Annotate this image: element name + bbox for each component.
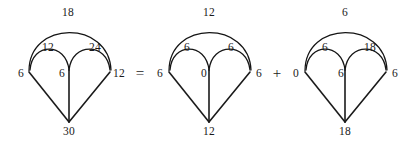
vertex-left-label-left-graph: 6 <box>18 68 24 80</box>
vertex-center-label-right-graph: 6 <box>338 68 344 80</box>
inner-arc-left-label-middle-graph: 6 <box>184 42 190 54</box>
inner-arc-left-label-right-graph: 6 <box>322 42 328 54</box>
vertex-bottom-label-middle-graph: 12 <box>203 126 215 138</box>
vertex-center-label-left-graph: 6 <box>59 68 65 80</box>
vertex-bottom-label-right-graph: 18 <box>339 126 351 138</box>
inner-arc-right-label-middle-graph: 6 <box>228 42 234 54</box>
equals-operator: = <box>136 66 144 81</box>
outer-arc-label-right-graph: 6 <box>342 7 348 19</box>
plus-operator: + <box>273 66 281 81</box>
graph-middle-shape <box>169 33 251 122</box>
spoke-right-right-graph <box>345 72 386 122</box>
vertex-left-label-right-graph: 0 <box>293 68 299 80</box>
graph-equation-figure: 18 12 24 6 6 12 30 = 12 6 6 6 0 6 12 + 6… <box>0 0 418 145</box>
inner-arc-right-label-right-graph: 18 <box>364 42 376 54</box>
inner-arc-left-label-left-graph: 12 <box>42 42 54 54</box>
vertex-center-label-middle-graph: 0 <box>201 68 207 80</box>
spoke-right-middle-graph <box>209 72 250 122</box>
inner-arc-right-label-left-graph: 24 <box>89 42 101 54</box>
outer-arc-label-middle-graph: 12 <box>203 7 215 19</box>
outer-arc-label-left-graph: 18 <box>62 7 74 19</box>
spoke-right-left-graph <box>69 72 110 122</box>
vertex-bottom-label-left-graph: 30 <box>63 126 75 138</box>
vertex-right-label-left-graph: 12 <box>113 68 125 80</box>
vertex-right-label-middle-graph: 6 <box>256 68 262 80</box>
vertex-left-label-middle-graph: 6 <box>157 68 163 80</box>
vertex-right-label-right-graph: 6 <box>392 68 398 80</box>
